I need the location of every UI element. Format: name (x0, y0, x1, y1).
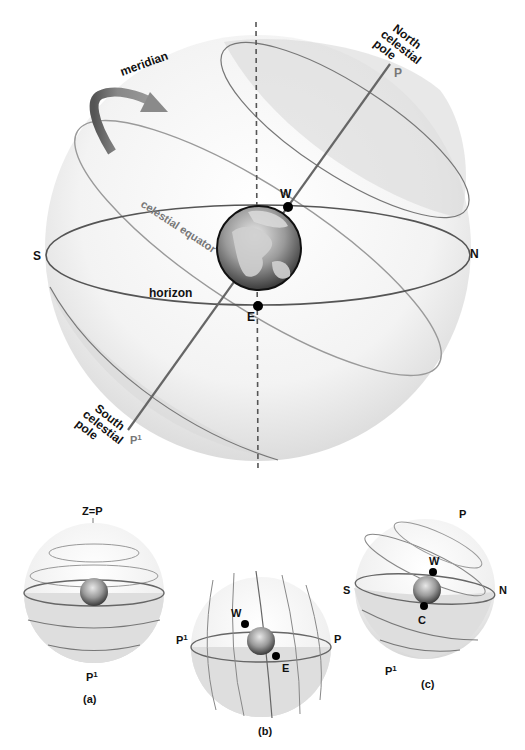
b-west-dot (241, 620, 249, 628)
b-west-label: W (231, 607, 242, 619)
c-bottom-label: P1 (385, 664, 397, 677)
a-caption: (a) (83, 693, 97, 705)
globe-icon-b (247, 627, 275, 655)
c-west-label: W (429, 555, 440, 567)
c-c-label: C (418, 614, 426, 626)
south-pole-P1-label: P1 (130, 433, 142, 446)
north-pole-P-label: P (394, 66, 402, 80)
b-left-label: P1 (176, 633, 188, 646)
globe-icon-a (80, 578, 108, 606)
west-label: W (280, 187, 292, 201)
c-west-dot (429, 568, 437, 576)
earth-globe-icon (217, 206, 301, 290)
c-right-label: N (499, 584, 507, 596)
a-top-label: Z=P (82, 505, 102, 517)
east-label: E (247, 310, 255, 324)
a-bottom-label: P1 (86, 670, 98, 683)
c-top-label: P (459, 508, 466, 520)
north-label: N (470, 247, 479, 261)
celestial-sphere-diagram: meridian North celestial pole P W S N ce… (0, 0, 525, 750)
south-label: S (33, 249, 41, 263)
west-point-dot (283, 202, 293, 212)
main-celestial-sphere: meridian North celestial pole P W S N ce… (33, 13, 491, 472)
sub-diagram-c: W C P S N P1 (c) (343, 508, 507, 690)
sub-diagram-a: Z=P P1 (a) (24, 505, 164, 705)
b-caption: (b) (258, 725, 272, 737)
b-east-dot (272, 652, 280, 660)
c-left-label: S (343, 584, 350, 596)
b-right-label: P (334, 633, 341, 645)
horizon-label: horizon (149, 286, 192, 300)
b-east-label: E (282, 662, 289, 674)
c-c-dot (420, 602, 428, 610)
c-caption: (c) (421, 678, 435, 690)
sub-diagram-b: W E P1 P (b) (176, 571, 341, 737)
globe-icon-c (413, 576, 441, 604)
